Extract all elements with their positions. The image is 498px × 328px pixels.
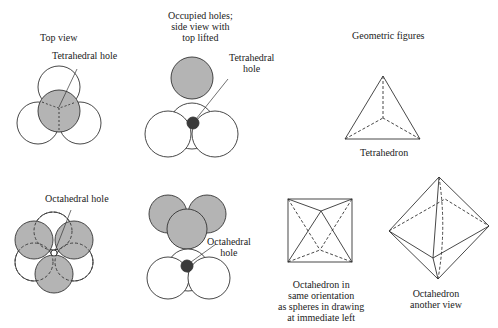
octahedron-square-figure [288,199,352,262]
tetrahedral-hole-label-side: Tetrahedral hole [229,52,274,74]
tetrahedral-top-view [17,66,101,144]
octahedron-another-view-figure [389,177,489,279]
octahedron-same-caption: Octahedron in same orientation as sphere… [278,279,364,323]
tetrahedral-side-view [145,57,238,157]
octahedron-other-caption: Octahedron another view [410,288,462,310]
octahedral-hole-label-top: Octahedral hole [45,193,109,204]
top-view-header: Top view [40,32,77,43]
octahedral-top-view [15,210,93,293]
tetrahedron-figure [345,76,420,139]
octahedral-hole-label-side: Octahedral hole [207,236,251,258]
occupied-holes-header: Occupied holes; side view with top lifte… [168,10,233,43]
geometric-figures-header: Geometric figures [352,30,424,41]
tetrahedron-caption: Tetrahedron [360,147,408,158]
tetrahedral-hole-label-top: Tetrahedral hole [52,50,117,61]
